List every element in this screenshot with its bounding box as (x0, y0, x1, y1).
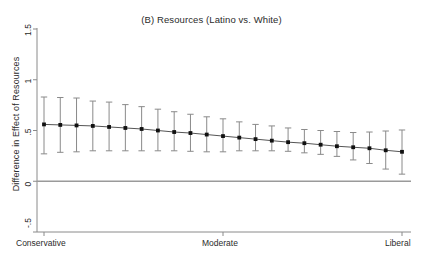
chart-figure: (B) Resources (Latino vs. White) Differe… (0, 0, 423, 265)
axis-lines (33, 28, 411, 236)
plot-area (0, 0, 423, 265)
